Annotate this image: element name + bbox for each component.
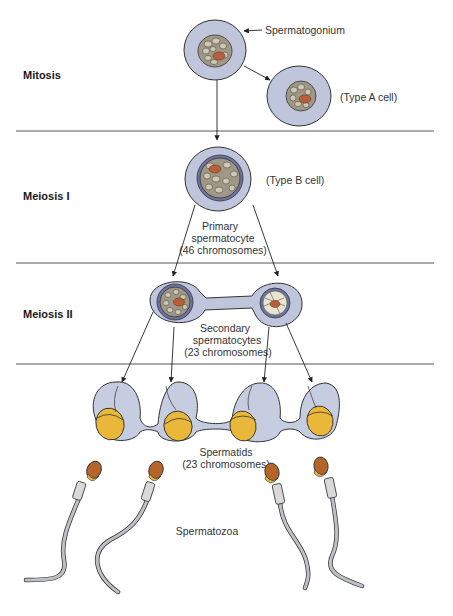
arrow-secondary-to-spermatid-1 [122, 312, 153, 382]
spermatogenesis-diagram: Mitosis Meiosis I Meiosis II Spermatogon… [0, 0, 453, 616]
label-spermatids-line2: (23 chromosomes) [182, 458, 270, 470]
spermatozoon-3 [263, 461, 308, 588]
label-type-a-cell: (Type A cell) [340, 91, 397, 103]
spermatozoon-4 [313, 456, 362, 586]
label-secondary-line2: spermatocytes [193, 334, 261, 346]
type-a-cell [267, 66, 331, 126]
stage-label-meiosis-1: Meiosis I [23, 190, 69, 202]
type-b-primary-spermatocyte-cell [185, 147, 251, 211]
label-spermatids-line1: Spermatids [199, 446, 252, 458]
label-secondary-line1: Secondary [200, 322, 251, 334]
nucleolus [299, 95, 311, 103]
arrow-spermatogonium-to-type-a [244, 66, 270, 80]
label-type-b-cell: (Type B cell) [266, 174, 324, 186]
nucleolus [270, 301, 280, 308]
spermatogonium-cell [184, 20, 246, 80]
spermatozoon-2 [97, 459, 165, 592]
label-spermatozoa: Spermatozoa [176, 525, 239, 537]
nucleolus [174, 298, 185, 306]
label-primary-line1: Primary [202, 220, 239, 232]
arrow-secondary-to-spermatid-4 [286, 323, 312, 382]
stage-label-meiosis-2: Meiosis II [23, 308, 73, 320]
nucleolus [209, 165, 221, 173]
secondary-spermatocytes-pair [150, 282, 302, 327]
spermatozoon-1 [26, 459, 104, 580]
arrow-secondary-to-spermatid-2 [171, 327, 174, 382]
arrow-to-spermatogonium-label [244, 30, 262, 31]
label-primary-line2: spermatocyte [191, 232, 254, 244]
label-primary-line3: (46 chromosomes) [179, 244, 267, 256]
arrow-primary-to-secondary-right [253, 205, 278, 276]
stage-label-mitosis: Mitosis [23, 69, 61, 81]
nucleolus [213, 52, 225, 60]
label-spermatogonium: Spermatogonium [265, 24, 345, 36]
label-secondary-line3: (23 chromosomes) [184, 346, 272, 358]
spermatids-syncytium [92, 382, 339, 445]
